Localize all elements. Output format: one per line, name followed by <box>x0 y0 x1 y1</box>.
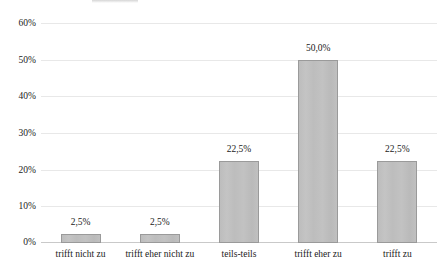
y-tick-label: 0% <box>3 237 36 247</box>
y-tick-label: 60% <box>3 18 36 28</box>
bar-value-label: 2,5% <box>71 217 91 228</box>
x-category-label: trifft nicht zu <box>56 248 106 260</box>
y-tick-label: 20% <box>3 165 36 175</box>
bar-value-label: 50,0% <box>306 43 331 54</box>
cut-off-title-sliver <box>92 0 138 3</box>
y-tick-label: 50% <box>3 55 36 65</box>
x-axis: trifft nicht zu trifft eher nicht zu tei… <box>41 248 437 268</box>
bar-slot: 2,5% <box>41 23 120 243</box>
bar-value-label: 2,5% <box>150 217 170 228</box>
x-category-label: trifft eher nicht zu <box>125 248 194 260</box>
bar-slot: 22,5% <box>199 23 278 243</box>
bar-chart: 60% 50% 40% 30% 20% 10% 0% 2,5% 2,5% 22,… <box>0 0 445 275</box>
y-tick-label: 40% <box>3 91 36 101</box>
x-category-label: trifft zu <box>383 248 412 260</box>
bar-value-label: 22,5% <box>227 144 252 155</box>
bar-trifft-zu[interactable] <box>377 161 417 244</box>
bar-trifft-nicht-zu[interactable] <box>61 234 101 243</box>
bar-trifft-eher-nicht-zu[interactable] <box>140 234 180 243</box>
bar-slot: 50,0% <box>279 23 358 243</box>
x-category-label: trifft eher zu <box>295 248 342 260</box>
bars-group: 2,5% 2,5% 22,5% 50,0% 22,5% <box>41 23 437 243</box>
bar-value-label: 22,5% <box>385 144 410 155</box>
bar-slot: 22,5% <box>358 23 437 243</box>
bar-teils-teils[interactable] <box>219 161 259 244</box>
y-tick-label: 10% <box>3 201 36 211</box>
bar-trifft-eher-zu[interactable] <box>298 60 338 243</box>
bar-slot: 2,5% <box>120 23 199 243</box>
y-tick-label: 30% <box>3 128 36 138</box>
x-category-label: teils-teils <box>222 248 257 260</box>
